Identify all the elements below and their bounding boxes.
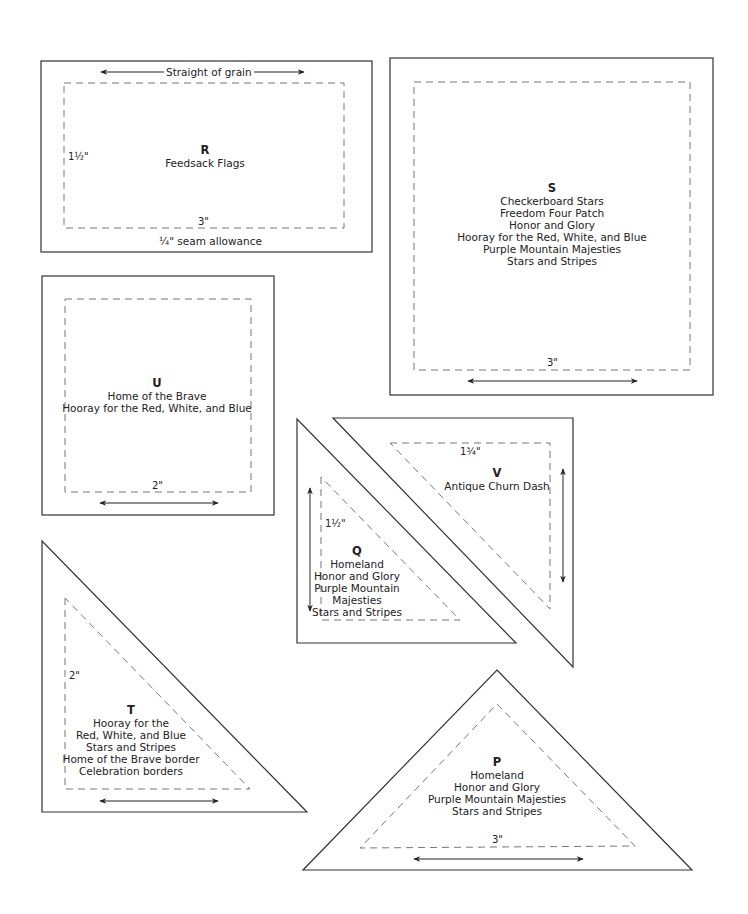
template-q-height-dim: 1½" bbox=[325, 518, 346, 529]
template-q-pattern: Honor and Glory bbox=[312, 570, 402, 582]
template-t-pattern: Celebration borders bbox=[62, 765, 199, 777]
template-t-pattern: Stars and Stripes bbox=[62, 741, 199, 753]
template-v bbox=[333, 418, 573, 667]
template-t-pattern: Red, White, and Blue bbox=[62, 729, 199, 741]
template-s-label: S Checkerboard Stars Freedom Four Patch … bbox=[457, 182, 647, 267]
template-p-letter: P bbox=[428, 756, 566, 769]
template-s-pattern: Honor and Glory bbox=[457, 219, 647, 231]
template-r-pattern: Feedsack Flags bbox=[165, 157, 245, 169]
template-r-width-dim: 3" bbox=[198, 216, 209, 227]
template-t-letter: T bbox=[62, 704, 199, 717]
template-p-pattern: Honor and Glory bbox=[428, 781, 566, 793]
template-v-letter: V bbox=[444, 467, 549, 480]
template-t-height-dim: 2" bbox=[69, 670, 80, 681]
template-s-pattern: Checkerboard Stars bbox=[457, 195, 647, 207]
template-r-height-dim: 1½" bbox=[68, 151, 89, 162]
template-q-pattern: Purple Mountain bbox=[312, 582, 402, 594]
template-u-label: U Home of the Brave Hooray for the Red, … bbox=[62, 377, 252, 414]
template-v-label: V Antique Churn Dash bbox=[444, 467, 549, 492]
template-q-pattern: Majesties bbox=[312, 594, 402, 606]
template-s-pattern: Hooray for the Red, White, and Blue bbox=[457, 231, 647, 243]
template-p-pattern: Stars and Stripes bbox=[428, 805, 566, 817]
template-s-letter: S bbox=[457, 182, 647, 195]
template-t-label: T Hooray for the Red, White, and Blue St… bbox=[62, 704, 199, 777]
template-p-width-dim: 3" bbox=[492, 834, 503, 845]
template-q-pattern: Homeland bbox=[312, 558, 402, 570]
template-s-pattern: Freedom Four Patch bbox=[457, 207, 647, 219]
template-u-width-dim: 2" bbox=[152, 480, 163, 491]
template-v-pattern: Antique Churn Dash bbox=[444, 480, 549, 492]
template-v-width-dim: 1¾" bbox=[460, 446, 481, 457]
template-s-width-dim: 3" bbox=[547, 357, 558, 368]
template-r-letter: R bbox=[165, 144, 245, 157]
template-s-pattern: Purple Mountain Majesties bbox=[457, 243, 647, 255]
template-t-pattern: Hooray for the bbox=[62, 717, 199, 729]
template-u-pattern: Home of the Brave bbox=[62, 390, 252, 402]
template-r-grain-label: Straight of grain bbox=[164, 66, 254, 78]
template-p-pattern: Homeland bbox=[428, 769, 566, 781]
template-p-pattern: Purple Mountain Majesties bbox=[428, 793, 566, 805]
template-t-pattern: Home of the Brave border bbox=[62, 753, 199, 765]
template-r-label: R Feedsack Flags bbox=[165, 144, 245, 169]
template-q-pattern: Stars and Stripes bbox=[312, 606, 402, 618]
template-q-letter: Q bbox=[312, 545, 402, 558]
template-v-cut-line bbox=[333, 418, 573, 667]
template-q-label: Q Homeland Honor and Glory Purple Mounta… bbox=[312, 545, 402, 618]
template-s-pattern: Stars and Stripes bbox=[457, 255, 647, 267]
template-u-letter: U bbox=[62, 377, 252, 390]
template-p-label: P Homeland Honor and Glory Purple Mounta… bbox=[428, 756, 566, 817]
template-r-seam-label: ¼" seam allowance bbox=[159, 236, 262, 247]
template-u-pattern: Hooray for the Red, White, and Blue bbox=[62, 402, 252, 414]
